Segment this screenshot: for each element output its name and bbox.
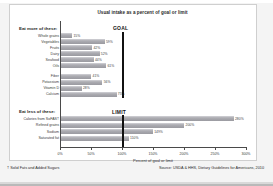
bar-value: 15% (73, 34, 80, 38)
bar-label: Refined grains (36, 123, 59, 127)
bar-label: Vegetables (41, 40, 59, 44)
x-tick-label: 150% (149, 152, 158, 156)
bar-row: Oils 61% (61, 64, 114, 68)
bar-label: Fiber (51, 74, 59, 78)
bar-value: 59% (106, 40, 113, 44)
chart-title: Usual intake as a percent of goal or lim… (50, 10, 235, 15)
bar-value: 149% (154, 130, 163, 134)
bar (61, 51, 100, 56)
bar (61, 129, 153, 134)
bar (61, 33, 72, 38)
bar-row: Calories from SoFAS† 280% (61, 117, 244, 121)
bar-value: 42% (93, 46, 100, 50)
bar-label: Whole grains (38, 34, 59, 38)
bar-label: Calcium (46, 92, 59, 96)
bar-row: Potassium 56% (61, 80, 110, 84)
bar (61, 86, 82, 91)
chart-card: Usual intake as a percent of goal or lim… (9, 4, 257, 161)
x-tick (60, 147, 61, 150)
bar-row: Refined grains 200% (61, 123, 194, 127)
bar-label: Dairy (51, 52, 59, 56)
bar-row: Fiber 41% (61, 74, 99, 78)
bar-row: Seafood 44% (61, 58, 102, 62)
bar-label: Seafood (46, 58, 59, 62)
footnote-sofas: † Solid Fats and Added Sugars (7, 166, 59, 170)
bar-label: Vitamin D (43, 86, 59, 90)
bar-label: Sodium (47, 130, 59, 134)
bar-label: Saturated fat (38, 136, 59, 140)
bar-row: Whole grains 15% (61, 34, 80, 38)
bar-row: Dairy 52% (61, 52, 108, 56)
bar-value: 110% (130, 136, 138, 140)
bar (61, 74, 91, 79)
bar (61, 63, 106, 68)
bar-row: Calcium 75% (61, 92, 125, 96)
bar-label: Potassium (42, 80, 59, 84)
bar-value: 44% (95, 58, 102, 62)
bar-value: 28% (83, 86, 90, 90)
group-heading-eat-more: Eat more of these: (19, 26, 57, 31)
page-bottom-rule (0, 184, 273, 186)
bar (61, 92, 117, 97)
x-tick (246, 147, 247, 150)
bar-value: 61% (107, 64, 114, 68)
goal-marker-label: GOAL (113, 25, 128, 31)
bar-value: 280% (235, 117, 244, 121)
x-tick (184, 147, 185, 150)
bar-value: 52% (101, 52, 108, 56)
bar-label: Calories from SoFAS† (23, 117, 59, 121)
source-citation: Source: USDA & HHS, Dietary Guidelines f… (159, 166, 264, 170)
bar-label: Oils (53, 64, 59, 68)
x-tick-label: 100% (118, 152, 127, 156)
x-tick (122, 147, 123, 150)
bar-label: Fruits (50, 46, 59, 50)
bar-row: Sodium 149% (61, 130, 163, 134)
x-tick (91, 147, 92, 150)
page-top-edge (0, 0, 273, 3)
bar-value: 41% (93, 74, 100, 78)
bar-row: Fruits 42% (61, 46, 100, 50)
x-tick-label: 250% (211, 152, 220, 156)
bar (61, 57, 94, 62)
x-axis-title: Percent of goal or limit (60, 158, 246, 163)
bar (61, 116, 234, 121)
bar (61, 39, 105, 44)
bar-value: 56% (104, 80, 111, 84)
bar (61, 136, 129, 141)
group-heading-eat-less: Eat less of these: (19, 109, 55, 114)
bar-row: Saturated fat 110% (61, 136, 139, 140)
bar-row: Vegetables 59% (61, 40, 113, 44)
x-tick (215, 147, 216, 150)
chart-page: Usual intake as a percent of goal or lim… (0, 0, 273, 186)
x-tick-label: 0% (57, 152, 62, 156)
limit-marker-label: LIMIT (112, 109, 126, 115)
goal-marker-line (122, 32, 124, 98)
x-tick-label: 300% (242, 152, 251, 156)
limit-marker-line (122, 115, 124, 147)
bar (61, 45, 92, 50)
bar-value: 200% (186, 123, 195, 127)
bar-row: Vitamin D 28% (61, 86, 90, 90)
bar (61, 80, 102, 85)
x-tick (153, 147, 154, 150)
x-tick-label: 200% (180, 152, 189, 156)
x-tick-label: 50% (87, 152, 94, 156)
